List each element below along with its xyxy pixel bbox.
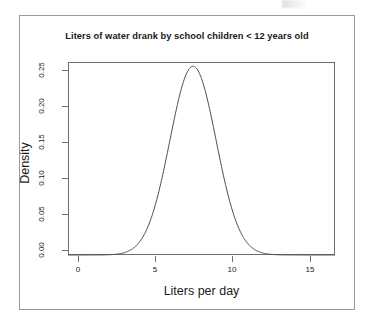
y-tick-mark bbox=[62, 142, 68, 143]
y-tick-mark bbox=[62, 70, 68, 71]
y-tick-label: 0.20 bbox=[24, 100, 58, 112]
y-axis-title-text: Density bbox=[18, 142, 32, 184]
y-tick-label: 0.00 bbox=[24, 244, 58, 256]
x-tick-mark bbox=[155, 256, 156, 262]
x-tick-label: 10 bbox=[212, 265, 252, 274]
x-tick-mark bbox=[78, 256, 79, 262]
y-axis-title: Density bbox=[14, 118, 36, 208]
y-tick-mark bbox=[62, 106, 68, 107]
y-tick-label: 0.05 bbox=[24, 208, 58, 220]
y-tick-mark bbox=[62, 214, 68, 215]
y-tick-label-text: 0.10 bbox=[37, 170, 46, 186]
x-tick-label: 15 bbox=[290, 265, 330, 274]
y-tick-label-text: 0.00 bbox=[37, 242, 46, 258]
y-tick-label-text: 0.15 bbox=[37, 134, 46, 150]
y-tick-label-text: 0.25 bbox=[37, 62, 46, 78]
y-tick-label: 0.25 bbox=[24, 64, 58, 76]
x-axis-title: Liters per day bbox=[68, 284, 335, 298]
y-tick-mark bbox=[62, 178, 68, 179]
x-tick-mark bbox=[232, 256, 233, 262]
scan-artifact bbox=[282, 0, 306, 8]
x-tick-label: 5 bbox=[135, 265, 175, 274]
y-tick-mark bbox=[62, 250, 68, 251]
x-tick-mark bbox=[310, 256, 311, 262]
density-curve-path bbox=[68, 66, 335, 255]
density-curve bbox=[68, 62, 335, 255]
y-tick-label-text: 0.20 bbox=[37, 98, 46, 114]
y-tick-label-text: 0.05 bbox=[37, 206, 46, 222]
chart-title: Liters of water drank by school children… bbox=[19, 31, 355, 41]
x-tick-label: 0 bbox=[58, 265, 98, 274]
